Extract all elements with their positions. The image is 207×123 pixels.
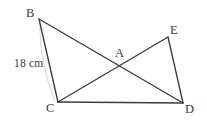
segment-cd	[58, 102, 183, 103]
geometry-figure: B C A E D 18 cm	[0, 0, 207, 123]
segment-ce	[58, 37, 168, 102]
vertex-label-b: B	[26, 7, 34, 20]
measure-label-bc: 18 cm	[14, 58, 43, 70]
vertex-label-d: D	[185, 103, 194, 116]
segment-ed	[168, 37, 183, 103]
vertex-label-e: E	[170, 24, 178, 37]
segment-bd	[39, 19, 183, 103]
vertex-label-a: A	[115, 47, 124, 60]
vertex-label-c: C	[46, 102, 54, 115]
